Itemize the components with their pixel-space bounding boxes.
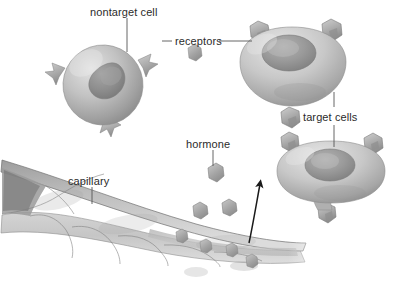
target-cell-lower xyxy=(277,132,385,223)
target-cell-lower-shadow xyxy=(314,185,366,201)
receptor-nontarget-left xyxy=(45,63,65,85)
label-target-cells: target cells xyxy=(303,111,357,123)
label-receptors: receptors xyxy=(175,35,222,47)
hormone-particle-1 xyxy=(208,163,224,182)
label-nontarget-cell: nontarget cell xyxy=(90,6,157,18)
label-capillary: capillary xyxy=(68,175,109,187)
target-lower-nucleus-highlight xyxy=(311,153,339,169)
target-cell-upper-shadow xyxy=(274,83,326,101)
hormone-particle-2 xyxy=(193,202,208,219)
nontarget-cell xyxy=(45,40,158,137)
capillary-fade xyxy=(288,232,348,274)
hormone-particle-3 xyxy=(222,199,237,216)
capillary-shading-e xyxy=(184,267,208,277)
free-hormone-group xyxy=(193,163,237,219)
hormone-diffusion-arrow xyxy=(249,184,260,243)
figure-canvas: nontarget cell receptors target cells ho… xyxy=(0,0,402,288)
label-hormone: hormone xyxy=(186,138,230,150)
